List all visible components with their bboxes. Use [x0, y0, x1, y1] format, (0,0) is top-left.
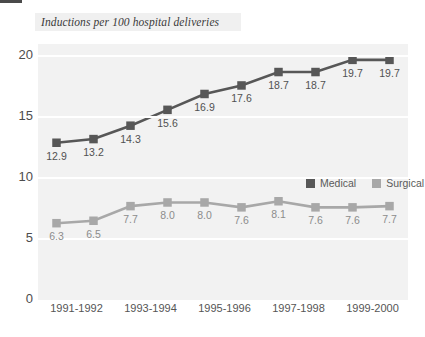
- series-plot: [38, 44, 408, 300]
- data-label-surgical: 7.6: [234, 214, 249, 226]
- y-axis: 05101520: [0, 44, 33, 300]
- y-tick-label: 0: [3, 291, 33, 306]
- x-tick-label: 1991-1992: [50, 302, 103, 314]
- x-tick-label: 1995-1996: [198, 302, 251, 314]
- series-line-medical: [57, 60, 390, 143]
- data-label-medical: 13.2: [83, 146, 103, 158]
- data-point-marker: [237, 81, 246, 90]
- data-label-surgical: 6.5: [86, 228, 101, 240]
- x-axis: 1991-19921993-19941995-19961997-19981999…: [38, 302, 408, 324]
- series-line-surgical: [57, 201, 390, 223]
- data-point-marker: [311, 203, 320, 212]
- data-label-surgical: 7.6: [345, 214, 360, 226]
- data-label-surgical: 8.0: [197, 209, 212, 221]
- data-point-marker: [237, 203, 246, 212]
- x-tick-label: 1993-1994: [124, 302, 177, 314]
- data-point-marker: [89, 217, 98, 226]
- data-point-marker: [385, 202, 394, 211]
- data-point-marker: [163, 106, 172, 115]
- data-point-marker: [274, 197, 283, 206]
- data-label-medical: 14.3: [120, 133, 140, 145]
- data-label-medical: 18.7: [268, 79, 288, 91]
- data-label-medical: 15.6: [157, 117, 177, 129]
- data-point-marker: [163, 198, 172, 207]
- data-point-marker: [126, 121, 135, 130]
- data-label-medical: 19.7: [379, 67, 399, 79]
- data-point-marker: [89, 135, 98, 144]
- y-tick-label: 15: [3, 108, 33, 123]
- y-tick-label: 20: [3, 47, 33, 62]
- data-point-marker: [348, 203, 357, 212]
- data-label-surgical: 8.1: [271, 208, 286, 220]
- x-tick-label: 1999-2000: [346, 302, 399, 314]
- data-point-marker: [126, 202, 135, 211]
- data-label-medical: 18.7: [305, 79, 325, 91]
- data-label-surgical: 8.0: [160, 209, 175, 221]
- data-label-surgical: 6.3: [49, 230, 64, 242]
- data-point-marker: [52, 138, 61, 147]
- data-point-marker: [274, 68, 283, 77]
- data-point-marker: [200, 90, 209, 99]
- data-label-surgical: 7.6: [308, 214, 323, 226]
- chart-figure: Inductions per 100 hospital deliveries 0…: [0, 0, 425, 337]
- legend-swatch-medical: [306, 179, 315, 188]
- data-point-marker: [52, 219, 61, 228]
- gridline: [38, 177, 408, 179]
- data-label-surgical: 7.7: [382, 213, 397, 225]
- y-tick-label: 10: [3, 169, 33, 184]
- y-tick-label: 5: [3, 230, 33, 245]
- data-label-medical: 12.9: [46, 150, 66, 162]
- chart-title: Inductions per 100 hospital deliveries: [35, 13, 241, 31]
- data-point-marker: [311, 68, 320, 77]
- data-label-surgical: 7.7: [123, 213, 138, 225]
- legend-swatch-surgical: [372, 179, 381, 188]
- data-label-medical: 17.6: [231, 92, 251, 104]
- data-label-medical: 19.7: [342, 67, 362, 79]
- data-label-medical: 16.9: [194, 101, 214, 113]
- gridline: [38, 55, 408, 57]
- x-tick-label: 1997-1998: [272, 302, 325, 314]
- scan-artifact-mark: [0, 0, 22, 3]
- data-point-marker: [200, 198, 209, 207]
- plot-area: Medical Surgical 12.913.214.315.616.917.…: [38, 44, 408, 300]
- gridline: [38, 116, 408, 118]
